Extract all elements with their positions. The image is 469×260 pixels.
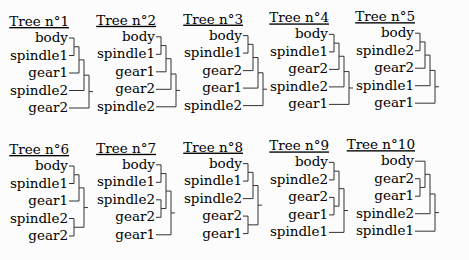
tree-title: Tree n°7 (96, 140, 156, 156)
tree-10: Tree n°10bodygear2gear1spindle2spindle1 (347, 136, 439, 238)
leaf-label: gear1 (288, 206, 328, 222)
tree-diagram-figure: Tree n°1bodyspindle1gear1spindle2gear2Tr… (0, 0, 469, 260)
leaf-label: gear1 (202, 225, 242, 241)
leaf-label: body (381, 24, 414, 40)
leaf-label: gear1 (374, 94, 414, 110)
leaf-label: gear2 (202, 62, 242, 78)
leaf-label: spindle1 (270, 43, 328, 59)
leaf-label: gear1 (115, 226, 155, 242)
tree-5: Tree n°5bodyspindle2gear2spindle1gear1 (355, 8, 439, 110)
leaf-label: gear2 (115, 80, 155, 96)
leaf-label: spindle1 (270, 223, 328, 239)
leaf-label: spindle2 (270, 78, 328, 94)
leaf-label: spindle2 (356, 205, 414, 221)
tree-title: Tree n°5 (355, 8, 415, 24)
tree-1: Tree n°1bodyspindle1gear1spindle2gear2 (9, 13, 93, 115)
tree-title: Tree n°4 (269, 9, 329, 25)
tree-title: Tree n°6 (9, 141, 69, 157)
leaf-label: spindle2 (184, 97, 242, 113)
leaf-label: gear2 (115, 208, 155, 224)
leaf-label: gear1 (28, 64, 68, 80)
tree-title: Tree n°3 (183, 11, 243, 27)
leaf-label: body (295, 153, 328, 169)
leaf-label: spindle1 (184, 172, 242, 188)
tree-4: Tree n°4bodyspindle1gear2spindle2gear1 (269, 9, 353, 111)
leaf-label: body (35, 29, 68, 45)
leaf-label: gear2 (28, 99, 68, 115)
leaf-label: gear2 (374, 170, 414, 186)
leaf-label: body (122, 28, 155, 44)
leaf-label: spindle1 (10, 175, 68, 191)
leaf-label: spindle1 (97, 173, 155, 189)
leaf-label: spindle2 (184, 190, 242, 206)
leaf-label: gear2 (374, 59, 414, 75)
leaf-label: body (35, 157, 68, 173)
tree-7: Tree n°7bodyspindle1spindle2gear2gear1 (96, 140, 175, 242)
leaf-label: spindle2 (356, 42, 414, 58)
leaf-label: gear2 (202, 207, 242, 223)
leaf-label: gear1 (288, 95, 328, 111)
leaf-label: spindle2 (97, 191, 155, 207)
leaf-label: spindle2 (270, 171, 328, 187)
tree-6: Tree n°6bodyspindle1gear1spindle2gear2 (9, 141, 88, 243)
leaf-label: body (209, 27, 242, 43)
tree-title: Tree n°9 (269, 137, 329, 153)
leaf-label: body (381, 152, 414, 168)
leaf-label: spindle1 (356, 77, 414, 93)
tree-title: Tree n°2 (96, 12, 156, 28)
leaf-label: gear1 (202, 79, 242, 95)
tree-3: Tree n°3bodyspindle1gear2gear1spindle2 (183, 11, 267, 113)
leaf-label: gear2 (28, 227, 68, 243)
leaf-label: spindle1 (10, 47, 68, 63)
tree-9: Tree n°9bodyspindle2gear2gear1spindle1 (269, 137, 348, 239)
tree-8: Tree n°8bodyspindle1spindle2gear2gear1 (183, 139, 262, 241)
leaf-label: body (122, 156, 155, 172)
leaf-label: body (209, 155, 242, 171)
leaf-label: body (295, 25, 328, 41)
tree-2: Tree n°2bodyspindle1gear1gear2spindle2 (96, 12, 180, 114)
leaf-label: spindle1 (97, 45, 155, 61)
leaf-label: gear1 (374, 187, 414, 203)
tree-title: Tree n°8 (183, 139, 243, 155)
leaf-label: gear2 (288, 188, 328, 204)
leaf-label: spindle1 (184, 44, 242, 60)
tree-title: Tree n°1 (9, 13, 69, 29)
leaf-label: spindle2 (10, 210, 68, 226)
tree-title: Tree n°10 (347, 136, 415, 152)
leaf-label: spindle2 (97, 98, 155, 114)
leaf-label: gear2 (288, 60, 328, 76)
leaf-label: gear1 (115, 63, 155, 79)
leaf-label: spindle1 (356, 222, 414, 238)
leaf-label: gear1 (28, 192, 68, 208)
leaf-label: spindle2 (10, 82, 68, 98)
